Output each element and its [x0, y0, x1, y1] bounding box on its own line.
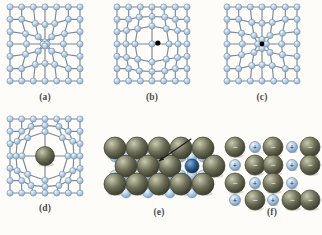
panel-f-graphic: −+−+−+−−+−−+−++−+−−: [222, 134, 322, 214]
host-atom: [65, 4, 71, 10]
host-atom: [7, 53, 13, 59]
host-atom: [239, 41, 245, 47]
host-atom: [7, 141, 13, 147]
cation-charge-label: +: [290, 143, 294, 152]
host-atom: [114, 41, 120, 47]
host-atom: [279, 41, 285, 47]
host-atom: [172, 78, 178, 84]
host-atom: [60, 41, 66, 47]
host-atom: [42, 21, 48, 27]
host-atom: [7, 165, 13, 171]
host-atom: [175, 41, 181, 47]
host-atom: [22, 51, 28, 57]
host-atom: [19, 190, 25, 196]
host-atom: [35, 34, 41, 40]
host-atom: [7, 116, 13, 122]
host-atom: [49, 34, 55, 40]
host-atom: [294, 66, 300, 72]
panel-a: [5, 2, 85, 86]
host-atom: [294, 53, 300, 59]
host-atom: [294, 29, 300, 35]
cation-charge-label: +: [233, 196, 237, 205]
host-atom: [114, 78, 120, 84]
host-atom: [49, 48, 55, 54]
caption-c: (c): [222, 92, 302, 102]
host-atom: [70, 138, 76, 144]
host-atom: [65, 116, 71, 122]
host-atom: [279, 52, 285, 58]
host-atom: [123, 27, 129, 33]
host-atom: [126, 16, 132, 22]
host-atom: [42, 184, 48, 190]
host-atom: [28, 182, 34, 188]
host-atom: [7, 190, 13, 196]
large-substitutional-atom: [36, 147, 55, 166]
host-atom: [172, 16, 178, 22]
host-atom: [65, 16, 71, 22]
host-atom: [7, 41, 13, 47]
host-atom: [30, 4, 36, 10]
host-atom: [149, 4, 155, 10]
host-atom: [123, 54, 129, 60]
host-sphere-large: [148, 173, 170, 195]
host-atom: [267, 49, 273, 55]
host-atom: [224, 4, 230, 10]
host-atom: [30, 190, 36, 196]
host-atom: [42, 4, 48, 10]
host-atom: [224, 16, 230, 22]
host-atom: [56, 182, 62, 188]
host-atom: [65, 128, 71, 134]
host-atom: [77, 128, 83, 134]
host-atom: [123, 41, 129, 47]
host-atom: [184, 53, 190, 59]
anion-charge-label: −: [307, 160, 312, 170]
host-atom: [77, 116, 83, 122]
host-atom: [137, 78, 143, 84]
host-atom: [249, 19, 255, 25]
host-atom: [166, 41, 172, 47]
host-atom: [135, 56, 141, 62]
host-atom: [42, 78, 48, 84]
host-atom: [42, 116, 48, 122]
host-atom: [224, 29, 230, 35]
host-atom: [22, 31, 28, 37]
host-atom: [114, 16, 120, 22]
host-atom: [236, 78, 242, 84]
host-atom: [184, 29, 190, 35]
host-atom: [28, 123, 34, 129]
host-atom: [35, 48, 41, 54]
host-atom: [184, 78, 190, 84]
host-sphere-large: [126, 173, 148, 195]
host-atom: [249, 62, 255, 68]
host-atom: [172, 66, 178, 72]
host-atom: [77, 53, 83, 59]
anion-charge-label: −: [252, 195, 257, 205]
host-atom: [77, 29, 83, 35]
host-atom: [77, 16, 83, 22]
host-atom: [59, 135, 65, 141]
cation-charge-label: +: [271, 196, 275, 205]
host-atom: [52, 61, 58, 67]
host-sphere-large: [170, 173, 192, 195]
host-atom: [23, 41, 29, 47]
host-atom: [236, 66, 242, 72]
host-atom: [136, 14, 142, 20]
host-atom: [149, 59, 155, 65]
host-atom: [294, 16, 300, 22]
host-atom: [161, 78, 167, 84]
host-atom: [77, 4, 83, 10]
host-atom: [19, 4, 25, 10]
host-atom: [259, 4, 265, 10]
panel-b: [112, 2, 192, 86]
caption-a: (a): [5, 92, 85, 102]
host-atom: [132, 41, 138, 47]
host-atom: [42, 190, 48, 196]
host-atom: [7, 16, 13, 22]
anion-charge-label: −: [232, 178, 237, 188]
host-atom: [114, 4, 120, 10]
host-atom: [282, 66, 288, 72]
anion-charge-label: −: [232, 142, 237, 152]
impurity-sphere: [185, 159, 199, 173]
host-atom: [7, 153, 13, 159]
host-atom: [163, 56, 169, 62]
